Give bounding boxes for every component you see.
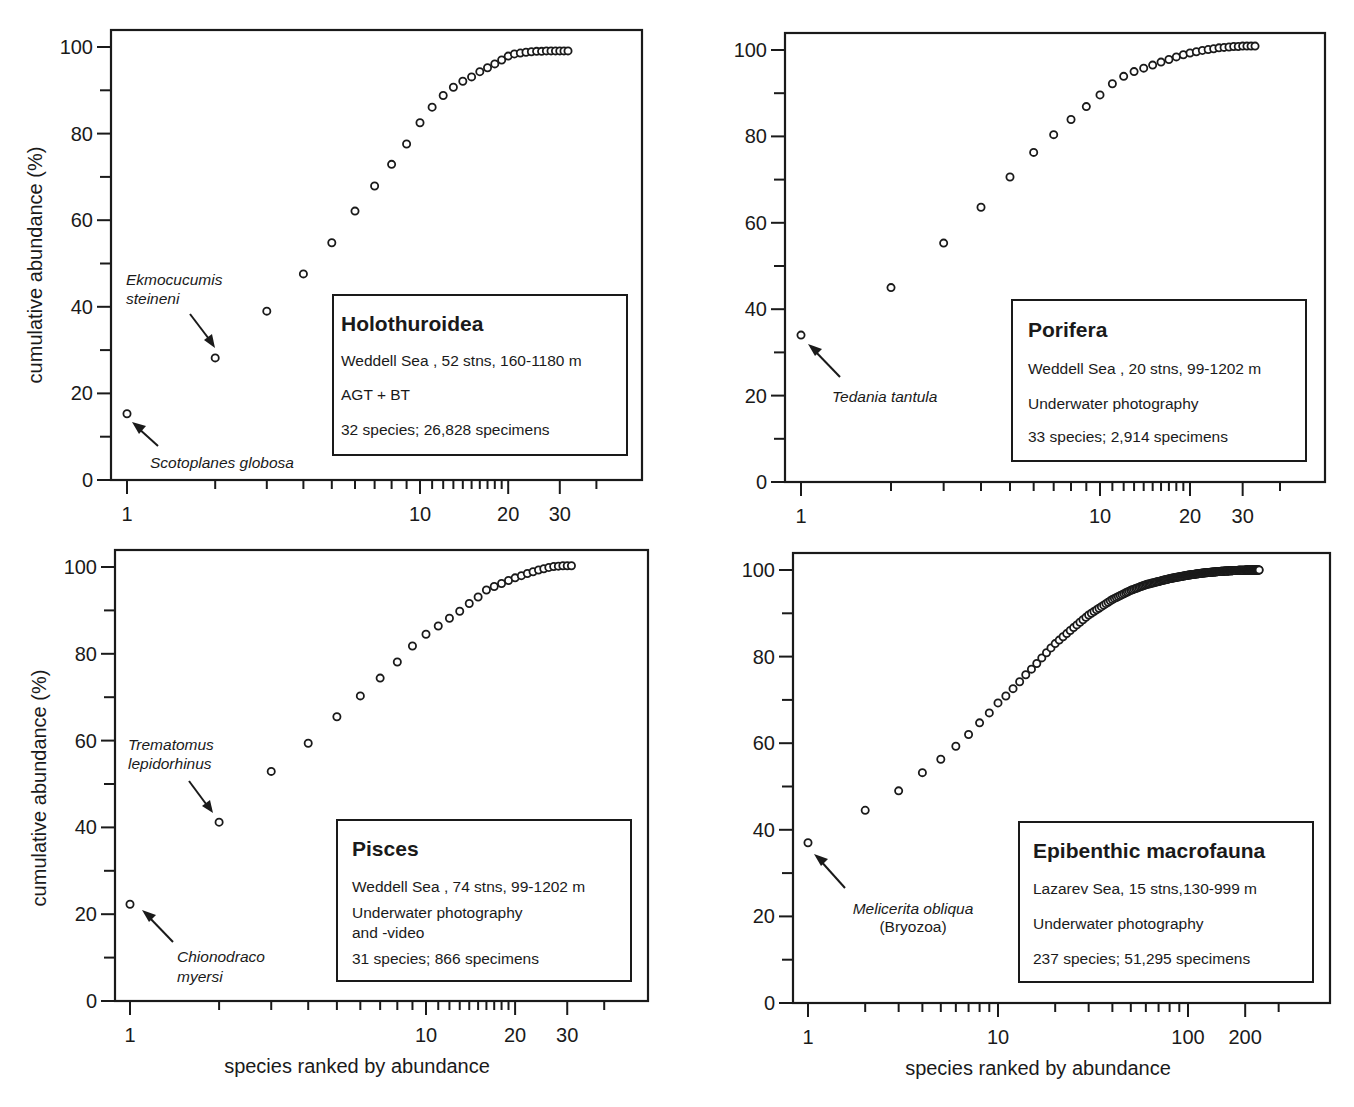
annotation-arrow bbox=[142, 910, 173, 942]
data-point bbox=[483, 586, 490, 593]
x-axis-title: species ranked by abundance bbox=[224, 1055, 490, 1077]
box-line: and -video bbox=[352, 924, 424, 941]
x-tick-label: 1 bbox=[121, 503, 132, 525]
box-line: 32 species; 26,828 specimens bbox=[341, 421, 550, 438]
data-point bbox=[216, 819, 223, 826]
y-tick-label: 20 bbox=[75, 903, 97, 925]
annotation-label: Melicerita obliqua bbox=[853, 900, 974, 917]
y-tick-label: 0 bbox=[82, 469, 93, 491]
data-point bbox=[403, 140, 410, 147]
annotation-arrow bbox=[814, 854, 845, 888]
data-point bbox=[459, 78, 466, 85]
data-point bbox=[937, 756, 944, 763]
box-line: Underwater photography bbox=[352, 904, 523, 921]
x-tick-label: 20 bbox=[504, 1024, 526, 1046]
data-point bbox=[976, 719, 983, 726]
y-tick-label: 100 bbox=[734, 39, 767, 61]
data-point bbox=[1109, 80, 1116, 87]
data-point bbox=[1130, 68, 1137, 75]
annotation-label: Tedania tantula bbox=[832, 388, 938, 405]
x-axis-ticks: 1102030 bbox=[121, 480, 596, 525]
panel-porifera: 020406080100 1102030 Tedania tantula Por… bbox=[734, 33, 1325, 527]
annotation-arrow bbox=[189, 781, 213, 813]
data-point bbox=[351, 208, 358, 215]
box-title: Holothuroidea bbox=[341, 312, 484, 335]
y-tick-label: 80 bbox=[75, 643, 97, 665]
y-tick-label: 100 bbox=[64, 556, 97, 578]
box-line: Weddell Sea , 74 stns, 99-1202 m bbox=[352, 878, 585, 895]
x-tick-label: 30 bbox=[556, 1024, 578, 1046]
box-line: Weddell Sea , 20 stns, 99-1202 m bbox=[1028, 360, 1261, 377]
x-tick-label: 1 bbox=[124, 1024, 135, 1046]
panel-pisces: 020406080100 1102030 cumulative abundanc… bbox=[28, 550, 648, 1077]
annotation-arrow bbox=[808, 344, 840, 377]
panel-holothuroidea: 020406080100 1102030 cumulative abundanc… bbox=[24, 30, 642, 525]
annotation-arrow bbox=[190, 314, 215, 348]
data-point bbox=[263, 308, 270, 315]
box-line: AGT + BT bbox=[341, 386, 411, 403]
data-point bbox=[1173, 53, 1180, 60]
box-line: 237 species; 51,295 specimens bbox=[1033, 950, 1250, 967]
data-point bbox=[435, 622, 442, 629]
data-point bbox=[1256, 566, 1263, 573]
y-axis-ticks: 020406080100 bbox=[60, 36, 111, 491]
y-tick-label: 40 bbox=[745, 298, 767, 320]
data-point bbox=[568, 562, 575, 569]
data-point bbox=[466, 600, 473, 607]
y-axis-ticks: 020406080100 bbox=[734, 39, 785, 493]
data-points bbox=[797, 43, 1258, 339]
y-tick-label: 20 bbox=[753, 905, 775, 927]
box-line: 33 species; 2,914 specimens bbox=[1028, 428, 1228, 445]
annotation-label: Ekmocucumis bbox=[126, 271, 223, 288]
info-box: Holothuroidea Weddell Sea , 52 stns, 160… bbox=[333, 295, 627, 455]
annotation-label: (Bryozoa) bbox=[879, 918, 946, 935]
data-point bbox=[268, 768, 275, 775]
data-point bbox=[1016, 678, 1023, 685]
y-axis-ticks: 020406080100 bbox=[64, 556, 115, 1012]
data-point bbox=[1083, 103, 1090, 110]
y-tick-label: 40 bbox=[71, 296, 93, 318]
info-box: Epibenthic macrofauna Lazarev Sea, 15 st… bbox=[1019, 822, 1313, 982]
panel-epibenthic-macrofauna: 020406080100 110100200 species ranked by… bbox=[742, 553, 1330, 1079]
x-axis-ticks: 1102030 bbox=[795, 482, 1280, 527]
data-point bbox=[491, 60, 498, 67]
data-point bbox=[986, 709, 993, 716]
y-tick-label: 0 bbox=[86, 990, 97, 1012]
x-tick-label: 20 bbox=[1179, 505, 1201, 527]
data-point bbox=[300, 270, 307, 277]
info-box: Pisces Weddell Sea , 74 stns, 99-1202 m … bbox=[337, 820, 631, 981]
x-tick-label: 30 bbox=[1232, 505, 1254, 527]
info-box: Porifera Weddell Sea , 20 stns, 99-1202 … bbox=[1012, 300, 1306, 461]
annotation-label: steineni bbox=[126, 290, 180, 307]
y-axis-ticks: 020406080100 bbox=[742, 559, 793, 1014]
box-line: Underwater photography bbox=[1028, 395, 1199, 412]
data-point bbox=[305, 740, 312, 747]
data-point bbox=[1120, 73, 1127, 80]
y-tick-label: 0 bbox=[756, 471, 767, 493]
y-tick-label: 40 bbox=[75, 816, 97, 838]
data-point bbox=[919, 769, 926, 776]
annotation-label: Scotoplanes globosa bbox=[150, 454, 294, 471]
annotation-label: lepidorhinus bbox=[128, 755, 212, 772]
figure-canvas: 020406080100 1102030 cumulative abundanc… bbox=[0, 0, 1354, 1107]
box-line: Underwater photography bbox=[1033, 915, 1204, 932]
data-point bbox=[887, 284, 894, 291]
data-point bbox=[123, 410, 130, 417]
data-point bbox=[1030, 149, 1037, 156]
y-axis-title: cumulative abundance (%) bbox=[24, 147, 46, 384]
data-point bbox=[1009, 685, 1016, 692]
y-tick-label: 100 bbox=[742, 559, 775, 581]
data-point bbox=[1140, 65, 1147, 72]
box-title: Porifera bbox=[1028, 318, 1108, 341]
x-tick-label: 1 bbox=[795, 505, 806, 527]
data-point bbox=[371, 182, 378, 189]
data-point bbox=[797, 332, 804, 339]
data-point bbox=[126, 901, 133, 908]
data-point bbox=[333, 713, 340, 720]
data-point bbox=[394, 658, 401, 665]
annotation-label: Trematomus bbox=[128, 736, 214, 753]
x-tick-label: 10 bbox=[987, 1026, 1009, 1048]
data-point bbox=[965, 731, 972, 738]
y-tick-label: 100 bbox=[60, 36, 93, 58]
y-tick-label: 60 bbox=[71, 209, 93, 231]
